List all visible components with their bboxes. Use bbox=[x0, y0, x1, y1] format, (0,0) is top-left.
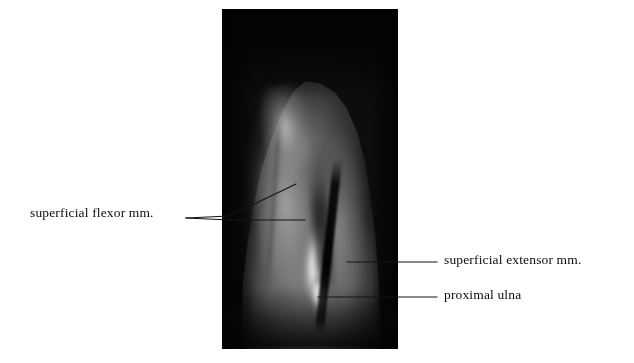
figure-root: superficial flexor mm. superficial exten… bbox=[0, 0, 634, 363]
mri-image-panel bbox=[222, 9, 398, 349]
label-proximal-ulna: proximal ulna bbox=[444, 287, 521, 303]
mr-noise-grain bbox=[222, 9, 398, 349]
label-superficial-flexor: superficial flexor mm. bbox=[30, 205, 154, 221]
label-superficial-extensor: superficial extensor mm. bbox=[444, 252, 581, 268]
